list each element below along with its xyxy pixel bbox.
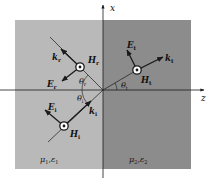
z-axis-label: z [200, 93, 206, 103]
h-i-out-of-page-icon [60, 122, 68, 130]
h-t-out-of-page-icon [133, 66, 141, 74]
medium1-region [15, 20, 103, 169]
medium2-region [103, 20, 191, 169]
h-r-out-of-page-icon [76, 63, 84, 71]
x-axis-label: x [110, 3, 115, 13]
wave-reflection-diagram: x z kr Hr Er θr Et kt Ht θt θi Ei ki Hi … [0, 0, 213, 188]
